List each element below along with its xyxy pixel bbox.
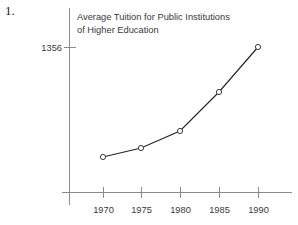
data-series-markers — [100, 44, 260, 159]
y-tick-label-1356: 1356 — [41, 43, 62, 53]
data-point-1985 — [216, 89, 221, 94]
chart-page: 1. Average Tuition for Public Institutio… — [0, 0, 298, 225]
data-series-line — [103, 47, 258, 157]
x-tick-label-1980: 1980 — [170, 205, 191, 215]
data-point-1975 — [138, 145, 143, 150]
data-point-1990 — [255, 44, 260, 49]
tuition-line-chart: Average Tuition for Public Institutions … — [0, 0, 298, 225]
x-tick-label-1990: 1990 — [248, 205, 269, 215]
x-tick-label-1970: 1970 — [93, 205, 114, 215]
x-tick-label-1975: 1975 — [131, 205, 152, 215]
x-tick-label-1985: 1985 — [209, 205, 230, 215]
chart-title-line-2: of Higher Education — [77, 25, 159, 35]
data-point-1980 — [177, 128, 182, 133]
data-point-1970 — [100, 154, 105, 159]
chart-title-line-1: Average Tuition for Public Institutions — [77, 12, 230, 22]
